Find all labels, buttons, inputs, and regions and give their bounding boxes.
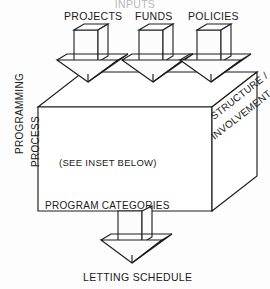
diagram-top-title: INPUTS — [115, 0, 155, 10]
arrow-shaft-front-projects — [74, 30, 98, 62]
input-label-policies: POLICIES — [188, 10, 239, 22]
input-label-funds: FUNDS — [135, 10, 173, 22]
arrow-shaft-front-policies — [197, 30, 221, 62]
output-shaft-front — [118, 211, 142, 243]
left-axis-label-line1: PROGRAMMING — [14, 66, 25, 162]
output-arrow-letting-schedule — [101, 206, 172, 263]
front-face-inset-note: (SEE INSET BELOW) — [59, 157, 157, 168]
arrow-shaft-side-projects — [98, 24, 108, 62]
arrow-shaft-front-funds — [139, 30, 163, 62]
output-shaft-side — [142, 206, 152, 243]
front-face-bottom-label: PROGRAM CATEGORIES — [45, 200, 170, 211]
left-axis-label-line2: PROCESS — [30, 94, 41, 190]
input-label-projects: PROJECTS — [64, 10, 122, 22]
diagram-canvas: STRUCTURE / INVOLVEMENT INPUTS PROJECTS … — [0, 0, 270, 289]
arrow-shaft-side-policies — [221, 24, 231, 62]
output-label-letting-schedule: LETTING SCHEDULE — [83, 271, 192, 283]
arrow-shaft-side-funds — [163, 24, 173, 62]
programming-process-diagram: STRUCTURE / INVOLVEMENT — [0, 0, 270, 289]
